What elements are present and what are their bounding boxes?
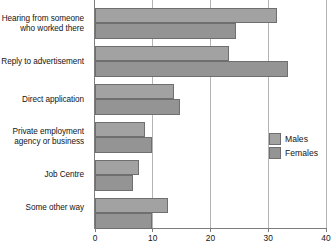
category-label: Reply to advertisement — [1, 57, 84, 67]
bar-females-0 — [95, 23, 236, 39]
tick-mark — [152, 228, 153, 232]
category-label: Direct application — [22, 95, 84, 105]
bar-females-2 — [95, 99, 180, 115]
bar-males-3 — [95, 122, 145, 138]
tick-label: 10 — [148, 233, 157, 243]
legend-swatch-icon — [269, 147, 281, 159]
gridline — [268, 0, 269, 228]
tick-mark — [326, 228, 327, 232]
bar-males-4 — [95, 160, 139, 176]
tick-mark — [210, 228, 211, 232]
tick-mark — [95, 228, 96, 232]
tick-label: 20 — [206, 233, 215, 243]
bar-males-5 — [95, 198, 168, 214]
gridline — [326, 0, 327, 228]
tick-label: 0 — [93, 233, 98, 243]
bar-males-0 — [95, 8, 277, 24]
category-label: Some other way — [26, 203, 84, 213]
plot-area — [95, 0, 326, 228]
legend-item-females: Females — [269, 146, 327, 160]
legend-item-males: Males — [269, 132, 327, 146]
tick-label: 40 — [321, 233, 330, 243]
bar-females-5 — [95, 213, 152, 229]
bar-females-1 — [95, 61, 288, 77]
bar-females-3 — [95, 137, 152, 153]
tick-label: 30 — [264, 233, 273, 243]
category-label: Job Centre — [44, 170, 84, 180]
bar-males-1 — [95, 46, 229, 62]
category-axis-labels: Hearing from someone who worked there Re… — [0, 0, 88, 228]
category-label: Hearing from someone who worked there — [2, 14, 84, 33]
legend-label: Females — [285, 147, 318, 159]
category-label: Private employment agency or business — [13, 127, 84, 146]
legend-label: Males — [285, 133, 308, 145]
legend: Males Females — [269, 132, 327, 160]
tick-mark — [268, 228, 269, 232]
bar-females-4 — [95, 175, 133, 191]
bar-males-2 — [95, 84, 174, 100]
legend-swatch-icon — [269, 133, 281, 145]
